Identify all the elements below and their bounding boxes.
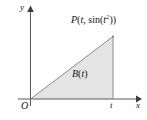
point-label-p: P(t, sin(t2)) (71, 14, 116, 25)
point-close-paren: ) (113, 14, 116, 25)
point-y-function: sin (88, 14, 100, 25)
y-axis-arrowhead (27, 6, 34, 13)
region-label-close-paren: ) (84, 68, 87, 79)
y-axis-label: y (20, 3, 24, 12)
x-axis-tick-label-t: t (110, 101, 113, 110)
point-p-marker (112, 36, 114, 38)
x-axis-label: x (136, 101, 140, 110)
figure-container: y x O t B(t) P(t, sin(t2)) (0, 0, 147, 120)
origin-label: O (21, 101, 28, 111)
region-label-bt: B(t) (72, 69, 88, 79)
